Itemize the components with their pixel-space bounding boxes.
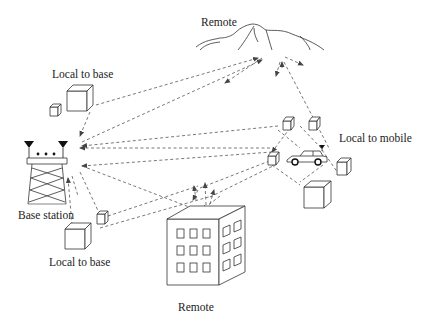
scatterer-cube-mobile-2 <box>309 117 320 130</box>
base-station-tower-icon <box>24 141 68 204</box>
scatterer-cube-mobile-1 <box>283 117 294 130</box>
building-icon <box>167 206 245 285</box>
scatterer-cube-small-bottom <box>97 211 108 224</box>
scatterer-cube-large-top <box>67 85 93 111</box>
scattering-diagram: Remote Local to base Local to mobile Bas… <box>0 0 428 321</box>
scatterer-cube-mobile-3 <box>268 152 279 165</box>
scatterer-cube-small-top <box>50 104 61 116</box>
scatterer-cube-mobile-4 <box>337 158 351 175</box>
signal-paths <box>68 57 340 228</box>
scatterer-cube-mobile-5 <box>304 181 331 208</box>
label-local-to-base-bottom: Local to base <box>49 257 110 269</box>
label-remote-mountain: Remote <box>201 17 237 29</box>
scatterer-cube-large-bottom <box>65 223 91 249</box>
label-base-station: Base station <box>18 210 74 222</box>
label-local-to-base-top: Local to base <box>52 69 113 81</box>
label-remote-building: Remote <box>178 302 214 314</box>
label-local-to-mobile: Local to mobile <box>339 133 412 145</box>
